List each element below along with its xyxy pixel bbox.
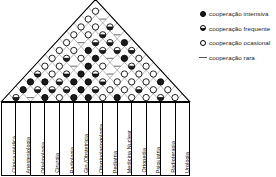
correlation-roof-svg [0,0,192,103]
cell-empty [143,63,149,69]
discipline-label-13[interactable]: Urologia [176,103,189,175]
discipline-label-12[interactable]: Radioterapia [161,103,175,175]
cell-full [71,94,77,100]
cell-full [71,79,77,85]
cell-empty [165,87,171,93]
dash-symbol-icon [196,57,209,58]
full-symbol-icon [196,11,209,17]
cell-full [85,47,91,53]
discipline-label-10[interactable]: Ortopedia [132,103,146,175]
cell-empty [150,87,156,93]
cell-empty [71,32,77,38]
cell-empty [78,24,84,30]
cell-empty [150,71,156,77]
cell-empty [85,32,91,38]
discipline-label-box: Clínica médicaAnestesiologiaOftalmologia… [1,102,190,176]
cell-full [157,79,163,85]
cell-empty [56,94,62,100]
discipline-label-text: Urologia [185,152,189,173]
cell-full [85,94,91,100]
legend: cooperação intensivacooperação frequente… [196,9,276,68]
cell-empty [129,94,135,100]
discipline-label-7[interactable]: Otorrinolaringologia [89,103,103,175]
discipline-label-11[interactable]: Psiquiatria [147,103,161,175]
cell-empty [172,94,178,100]
cell-full [121,55,127,61]
cell-empty [71,47,77,53]
cell-full [42,94,48,100]
cell-empty [49,71,55,77]
legend-item-label: cooperação ocasional [209,39,270,46]
cell-empty [136,55,142,61]
cell-empty [100,94,106,100]
discipline-label-8[interactable]: Pediatria [103,103,117,175]
cell-full [20,87,26,93]
cell-empty [143,79,149,85]
legend-item-label: cooperação rara [209,54,255,61]
cell-empty [56,47,62,53]
cell-empty [49,55,55,61]
cell-empty [92,8,98,14]
cell-empty [107,87,113,93]
cell-empty [114,79,120,85]
cell-full [42,79,48,85]
legend-item-dash: cooperação rara [196,53,276,62]
discipline-label-5[interactable]: Radiologia [60,103,74,175]
diagram-root: Clínica médicaAnestesiologiaOftalmologia… [0,0,276,177]
cell-empty [143,94,149,100]
cell-full [85,63,91,69]
cell-full [78,87,84,93]
cell-empty [129,79,135,85]
cell-empty [78,55,84,61]
discipline-label-6[interactable]: Gin./Obstetrícia [74,103,88,175]
legend-item-full: cooperação intensiva [196,9,276,18]
cell-empty [100,63,106,69]
cell-empty [56,63,62,69]
discipline-label-4[interactable]: Cirurgia [45,103,59,175]
cell-empty [63,39,69,45]
discipline-label-3[interactable]: Oftalmologia [31,103,45,175]
cell-full [85,79,91,85]
legend-item-empty: cooperação ocasional [196,38,276,47]
legend-item-label: cooperação frequente [209,25,270,32]
cell-full [78,71,84,77]
cell-full [114,94,120,100]
empty-symbol-icon [196,40,209,46]
cell-empty [136,71,142,77]
cell-full [121,39,127,45]
discipline-label-9[interactable]: Medicina Nuclear [118,103,132,175]
cell-empty [42,63,48,69]
cell-empty [121,87,127,93]
cell-empty [121,71,127,77]
discipline-label-1[interactable]: Clínica médica [2,103,16,175]
cell-empty [92,24,98,30]
half-symbol-icon [196,25,209,31]
legend-item-half: cooperação frequente [196,24,276,33]
correlation-roof [0,0,192,103]
cell-full [27,79,33,85]
discipline-label-2[interactable]: Anestesiologia [16,103,30,175]
cell-full [92,55,98,61]
cell-empty [85,16,91,22]
legend-item-label: cooperação intensiva [209,10,268,17]
